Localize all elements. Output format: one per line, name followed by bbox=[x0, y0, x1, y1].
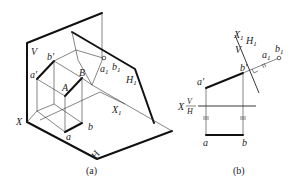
point-a1-b1 bbox=[102, 56, 106, 60]
label-a1: a1 bbox=[100, 63, 109, 76]
label-b: b bbox=[88, 121, 93, 132]
label-b: b bbox=[242, 137, 247, 148]
label-H: H bbox=[88, 148, 102, 162]
label-a-prime: a' bbox=[30, 69, 38, 80]
label-b1: b1 bbox=[275, 43, 284, 56]
label-H1: H1 bbox=[245, 35, 257, 48]
label-b-prime: b' bbox=[47, 51, 55, 62]
label-a: a bbox=[66, 131, 71, 142]
x1-axis-inner2 bbox=[100, 92, 125, 104]
caption-b: (b) bbox=[233, 165, 245, 177]
label-X: X bbox=[177, 101, 185, 112]
line-a-prime-b-prime bbox=[37, 61, 54, 79]
label-H-axis: H bbox=[186, 107, 194, 116]
label-H1: H1 bbox=[125, 74, 137, 87]
h1-plane-top-inner bbox=[72, 32, 78, 60]
label-a: a bbox=[203, 137, 208, 148]
line-a-prime-b-prime bbox=[206, 73, 243, 88]
label-V: V bbox=[31, 46, 39, 57]
label-B: B bbox=[79, 67, 85, 78]
x1-axis-lower bbox=[92, 85, 172, 131]
label-V: V bbox=[235, 44, 243, 55]
point-a1-b1 bbox=[277, 56, 281, 60]
label-b1: b1 bbox=[112, 61, 121, 74]
label-X1: X1 bbox=[111, 104, 122, 117]
caption-a: (a) bbox=[86, 165, 97, 177]
label-a1: a1 bbox=[262, 49, 271, 62]
label-X: X bbox=[15, 116, 23, 127]
figure-b: X1 H1 V a1 b1 b' a' X V H a b (b) bbox=[177, 29, 284, 177]
label-V-axis: V bbox=[187, 97, 193, 106]
label-A: A bbox=[61, 82, 69, 93]
label-X1: X1 bbox=[233, 29, 244, 42]
descriptive-geometry-figure: V b' a' B A a1 b1 H1 X X1 a b H (a) bbox=[0, 0, 295, 187]
figure-a: V b' a' B A a1 b1 H1 X X1 a b H (a) bbox=[15, 13, 172, 177]
label-b-prime: b' bbox=[240, 62, 248, 73]
label-a-prime: a' bbox=[197, 76, 205, 87]
